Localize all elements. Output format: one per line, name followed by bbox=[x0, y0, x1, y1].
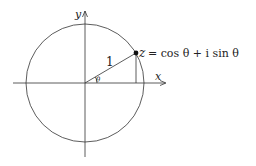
point-equation-label: = cos θ + i sin θ bbox=[148, 47, 239, 60]
x-axis-label: x bbox=[155, 70, 162, 83]
point-variable-label: z bbox=[138, 46, 146, 60]
radius-label: 1 bbox=[106, 55, 114, 69]
y-axis-label: y bbox=[74, 8, 82, 21]
unit-circle-diagram: y x 1 θ z = cos θ + i sin θ bbox=[0, 0, 256, 166]
point-z bbox=[134, 51, 139, 56]
